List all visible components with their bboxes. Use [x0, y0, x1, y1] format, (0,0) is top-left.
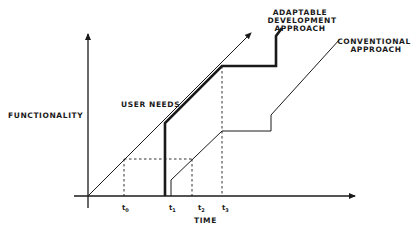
tick-t3: t3	[222, 204, 229, 213]
tick-t2: t2	[198, 204, 205, 213]
conventional-approach-line	[171, 39, 340, 196]
x-axis-label: TIME	[194, 216, 217, 225]
tick-t1: t1	[169, 204, 176, 213]
y-axis-label: FUNCTIONALITY	[8, 111, 83, 120]
tick-labels: t0 t1 t2 t3	[122, 204, 229, 213]
tick-t0: t0	[122, 204, 129, 213]
axes	[74, 34, 355, 208]
dashed-guides	[124, 66, 222, 196]
adaptable-label-line3: APPROACH	[274, 24, 325, 33]
user-needs-line	[88, 33, 251, 196]
user-needs-label: USER NEEDS	[121, 100, 180, 109]
functionality-vs-time-diagram: FUNCTIONALITY TIME USER NEEDS ADAPTABLE …	[0, 0, 417, 231]
conventional-label-line2: APPROACH	[350, 45, 401, 54]
adaptable-development-line	[165, 28, 282, 196]
